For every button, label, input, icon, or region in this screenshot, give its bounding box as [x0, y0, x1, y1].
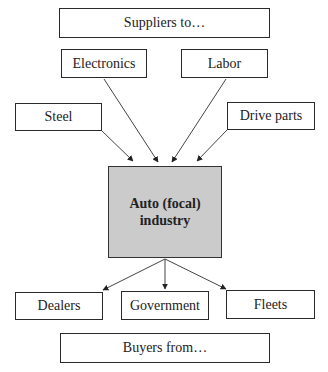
supplier-labor-label: Labor [208, 56, 241, 72]
edge-labor-to-focal [172, 79, 226, 162]
focal-industry-box: Auto (focal) industry [108, 166, 222, 258]
supplier-electronics-label: Electronics [73, 56, 136, 72]
supplier-electronics-box: Electronics [61, 49, 147, 78]
suppliers-header-box: Suppliers to… [59, 8, 270, 38]
buyer-government-box: Government [121, 291, 209, 320]
buyer-fleets-label: Fleets [254, 297, 287, 313]
buyer-government-label: Government [130, 298, 200, 314]
supplier-drive-parts-label: Drive parts [240, 108, 303, 124]
focal-industry-line1: Auto (focal) [129, 195, 200, 212]
supplier-drive-parts-box: Drive parts [227, 102, 315, 130]
supplier-labor-box: Labor [181, 49, 268, 78]
supplier-steel-box: Steel [15, 103, 102, 131]
edge-focal-to-dealers [103, 259, 165, 290]
buyers-footer-box: Buyers from… [60, 333, 270, 363]
edge-steel-to-focal [102, 131, 133, 161]
buyer-dealers-label: Dealers [38, 298, 81, 314]
supplier-steel-label: Steel [45, 109, 73, 125]
buyer-dealers-box: Dealers [15, 292, 103, 320]
buyers-footer-label: Buyers from… [123, 340, 207, 356]
edge-drive-parts-to-focal [197, 130, 227, 161]
suppliers-header-label: Suppliers to… [124, 15, 205, 31]
buyer-fleets-box: Fleets [226, 290, 315, 319]
edge-electronics-to-focal [104, 79, 158, 162]
edge-focal-to-fleets [165, 259, 226, 289]
focal-industry-line2: industry [140, 212, 191, 229]
